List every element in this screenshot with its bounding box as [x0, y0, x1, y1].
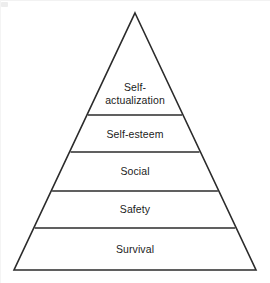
pyramid-outline-svg: [0, 0, 270, 283]
pyramid-body-shape: [14, 13, 256, 270]
pyramid-diagram: Self- actualization Self-esteem Social S…: [0, 0, 270, 283]
